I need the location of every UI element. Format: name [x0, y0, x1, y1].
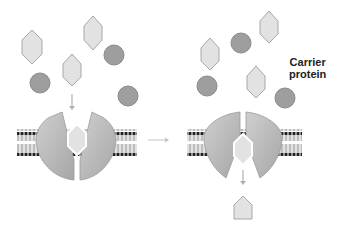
other-molecule-circle [197, 76, 217, 96]
down-arrow-icon [69, 94, 75, 110]
left-molecules [22, 16, 138, 106]
other-molecule-circle [30, 73, 50, 93]
released-solute-hexagon [234, 196, 252, 219]
label-line-1: Carrier [289, 56, 326, 68]
solute-hexagon [84, 16, 102, 50]
right-molecules [197, 11, 295, 108]
other-molecule-circle [118, 86, 138, 106]
label-line-2: protein [289, 68, 326, 80]
solute-hexagon [260, 11, 278, 43]
right-arrow-icon [148, 138, 169, 143]
carrier-protein-open-outside [36, 112, 116, 180]
solute-hexagon [247, 66, 265, 98]
solute-hexagon [201, 38, 219, 70]
other-molecule-circle [231, 33, 251, 53]
carrier-protein-open-inside [204, 112, 282, 178]
other-molecule-circle [275, 88, 295, 108]
down-arrow-icon [240, 170, 246, 185]
solute-hexagon [63, 54, 81, 86]
solute-hexagon [22, 30, 42, 64]
other-molecule-circle [104, 45, 124, 65]
carrier-protein-diagram [0, 0, 351, 227]
carrier-protein-label: Carrier protein [289, 56, 326, 80]
